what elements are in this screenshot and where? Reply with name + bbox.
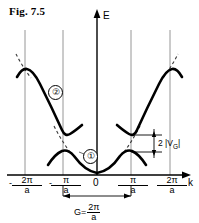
tick-label--2pi-a: 2π a <box>12 176 42 195</box>
reciprocal-vector-label: G= 2π a <box>74 203 100 221</box>
gap-arrow-down <box>152 150 156 156</box>
tick-label-2pi-a: 2π a <box>157 176 187 195</box>
band-label-leaders <box>49 91 84 154</box>
figure-title: Fig. 7.5 <box>9 5 45 17</box>
gap-arrow-up <box>152 131 156 137</box>
energy-axis-label: E <box>103 10 110 21</box>
energy-axis-arrowhead <box>94 9 101 18</box>
tick-denominator: a <box>118 186 148 195</box>
tick-label-zero: 0 <box>93 177 99 188</box>
g-label-prefix: G= <box>74 207 86 217</box>
band-2-right <box>117 69 182 135</box>
gap-label-suffix: | <box>178 138 180 148</box>
tick-denominator: a <box>51 186 81 195</box>
band-2-left <box>17 69 82 135</box>
tick-denominator: a <box>12 186 42 195</box>
tick-label-pi-a: π a <box>118 176 148 195</box>
tick-label--pi-a: π a <box>51 176 81 195</box>
g-denominator: a <box>87 213 100 222</box>
band-label-1: ① <box>83 149 98 164</box>
band-2-curve <box>17 69 182 135</box>
figure-band-structure: Fig. 7.5 E k - 2π a - π a 0 π a 2π a 2 |… <box>0 0 199 223</box>
gap-label-prefix: 2 |V <box>158 138 173 148</box>
wavevector-axis-label: k <box>188 177 193 188</box>
g-label-fraction: 2π a <box>87 203 100 221</box>
band-label-2: ② <box>48 85 63 100</box>
energy-gap-label: 2 |VG| <box>158 138 180 150</box>
tick-denominator: a <box>157 186 187 195</box>
